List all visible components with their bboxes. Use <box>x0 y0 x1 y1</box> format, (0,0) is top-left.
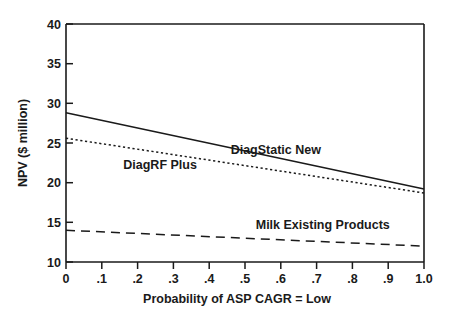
x-axis-title: Probability of ASP CAGR = Low <box>143 292 331 306</box>
x-tick-label-0.4: .4 <box>204 272 214 286</box>
line-chart: 10 15 20 25 30 35 40 0 .1 .2 .3 <box>0 0 464 319</box>
x-axis-ticks <box>66 262 424 269</box>
y-tick-label-10: 10 <box>47 256 61 270</box>
series-annotations: DiagStatic New DiagRF Plus Milk Existing… <box>123 143 390 232</box>
x-tick-label-0.1: .1 <box>97 272 107 286</box>
y-tick-label-30: 30 <box>47 97 61 111</box>
y-axis-title: NPV ($ million) <box>16 99 30 187</box>
x-tick-label-0: 0 <box>63 272 70 286</box>
series-line-milk-existing-products <box>66 230 424 246</box>
y-tick-label-35: 35 <box>47 57 61 71</box>
x-tick-label-0.8: .8 <box>347 272 357 286</box>
y-tick-label-15: 15 <box>47 216 61 230</box>
series-label-diagrf-plus: DiagRF Plus <box>123 158 197 172</box>
x-tick-label-0.6: .6 <box>276 272 286 286</box>
x-tick-label-0.7: .7 <box>311 272 321 286</box>
y-axis-ticks <box>66 24 73 262</box>
x-tick-label-0.3: .3 <box>168 272 178 286</box>
chart-figure: 10 15 20 25 30 35 40 0 .1 .2 .3 <box>0 0 464 319</box>
y-tick-label-25: 25 <box>47 137 61 151</box>
series-label-diagstatic-new: DiagStatic New <box>231 143 322 157</box>
x-tick-label-0.2: .2 <box>132 272 142 286</box>
y-tick-label-20: 20 <box>47 176 61 190</box>
x-tick-label-0.5: .5 <box>240 272 250 286</box>
x-tick-label-1.0: 1.0 <box>415 272 432 286</box>
series-label-milk-existing-products: Milk Existing Products <box>256 218 390 232</box>
x-axis-tick-labels: 0 .1 .2 .3 .4 .5 .6 .7 .8 .9 1.0 <box>63 272 433 286</box>
y-axis-tick-labels: 10 15 20 25 30 35 40 <box>47 18 61 270</box>
y-tick-label-40: 40 <box>47 18 61 32</box>
x-tick-label-0.9: .9 <box>383 272 393 286</box>
